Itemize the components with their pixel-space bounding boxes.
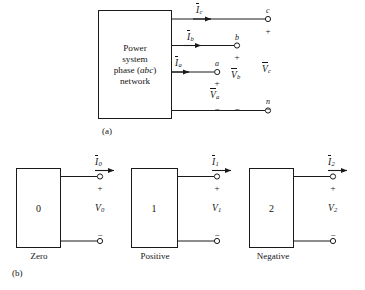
box-line-2: system	[98, 54, 172, 65]
zero-sequence-voltage-label: V0	[95, 203, 104, 213]
negative-sequence-plus: +	[331, 183, 336, 193]
diagram-canvas	[0, 0, 365, 290]
figure-caption-b: (b)	[12, 268, 23, 278]
zero-sequence-current-label: I0	[95, 155, 102, 167]
negative-sequence-caption: Negative	[245, 251, 301, 261]
box-italic-abc: abc	[140, 65, 153, 75]
zero-current-sub: 0	[98, 160, 101, 167]
negative-voltage-base: V	[328, 203, 334, 213]
voltage-b-base: V	[231, 68, 237, 80]
voltage-a-base: V	[210, 88, 216, 100]
positive-sequence-minus: −	[215, 230, 220, 240]
polarity-plus-b: +	[235, 52, 240, 62]
zero-voltage-sub: 0	[101, 206, 104, 213]
negative-current-sub: 2	[331, 160, 334, 167]
polarity-plus-c: +	[266, 26, 271, 36]
positive-sequence-caption: Positive	[128, 251, 182, 261]
terminal-a-label: a	[215, 59, 219, 68]
box-line-1: Power	[98, 43, 172, 54]
voltage-c-base: V	[262, 62, 268, 74]
zero-sequence-number: 0	[16, 203, 61, 214]
figure-caption-a: (a)	[102, 126, 112, 136]
positive-sequence-number: 1	[131, 203, 177, 214]
zero-sequence-bottom-lead	[61, 238, 103, 243]
negative-voltage-sub: 2	[334, 206, 337, 213]
terminal-c-label: c	[266, 6, 270, 15]
positive-sequence-bottom-lead	[178, 238, 220, 243]
zero-sequence-caption: Zero	[14, 251, 64, 261]
zero-sequence-top-lead	[61, 174, 103, 179]
polarity-minus-b: −	[235, 104, 240, 114]
box-line-4: network	[98, 76, 172, 87]
current-a-label: Ia	[175, 56, 182, 68]
negative-sequence-bottom-lead	[294, 238, 336, 243]
zero-sequence-plus: +	[98, 183, 103, 193]
positive-sequence-current-label: I1	[212, 155, 219, 167]
positive-sequence-voltage-label: V1	[212, 203, 221, 213]
terminal-b-label: b	[235, 33, 239, 42]
voltage-c-label: Vc	[262, 62, 271, 74]
current-c-sub: c	[199, 8, 202, 15]
negative-sequence-top-lead	[294, 174, 336, 179]
box-line-3: phase (abc)	[98, 65, 172, 76]
zero-voltage-base: V	[95, 203, 101, 213]
negative-sequence-number: 2	[249, 203, 294, 214]
positive-voltage-sub: 1	[218, 206, 221, 213]
voltage-b-label: Vb	[231, 68, 240, 80]
voltage-a-sub: a	[216, 93, 219, 100]
neutral-conductor	[172, 108, 271, 113]
negative-sequence-minus: −	[331, 230, 336, 240]
positive-sequence-top-lead	[178, 174, 220, 179]
figure-root: Power system phase (abc) network Ic Ib I…	[0, 0, 365, 290]
positive-sequence-plus: +	[215, 183, 220, 193]
negative-sequence-voltage-label: V2	[328, 203, 337, 213]
current-c-label: Ic	[196, 3, 202, 15]
positive-voltage-base: V	[212, 203, 218, 213]
voltage-c-sub: c	[268, 67, 271, 74]
negative-sequence-current-label: I2	[328, 155, 335, 167]
current-b-label: Ib	[187, 30, 194, 42]
zero-sequence-minus: −	[98, 230, 103, 240]
positive-current-sub: 1	[215, 160, 218, 167]
phase-c-conductor	[172, 16, 271, 21]
voltage-a-label: Va	[210, 88, 219, 100]
current-b-sub: b	[190, 35, 193, 42]
polarity-minus-a: −	[215, 104, 220, 114]
phase-b-conductor	[172, 43, 240, 48]
polarity-minus-c: −	[266, 104, 271, 114]
polarity-plus-a: +	[215, 78, 220, 88]
voltage-b-sub: b	[237, 73, 240, 80]
power-system-box-label: Power system phase (abc) network	[98, 43, 172, 86]
current-a-sub: a	[178, 61, 181, 68]
